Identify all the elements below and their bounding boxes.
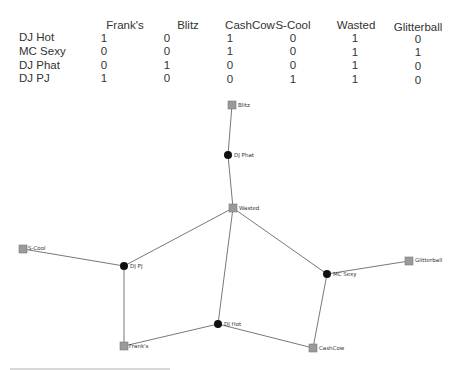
edge-wasted-djpj xyxy=(124,208,233,266)
venue-square-icon xyxy=(228,101,236,109)
person-circle-icon xyxy=(214,320,222,328)
node-franks: Frank's xyxy=(120,342,149,350)
edge-djhot-cashcow xyxy=(218,324,313,348)
node-mcsexy: MC Sexy xyxy=(323,270,357,278)
node-label: DJ PJ xyxy=(130,263,143,270)
venue-square-icon xyxy=(120,342,128,350)
node-label: Blitz xyxy=(238,102,250,108)
venue-square-icon xyxy=(229,204,237,212)
node-blitz: Blitz xyxy=(228,101,250,109)
venue-square-icon xyxy=(309,344,317,352)
person-circle-icon xyxy=(120,262,128,270)
node-label: Wasted xyxy=(239,205,259,211)
person-circle-icon xyxy=(224,151,232,159)
node-label: Frank's xyxy=(129,343,149,349)
node-djphat: DJ Phat xyxy=(224,151,255,159)
edges xyxy=(23,105,409,348)
figure-caption-cropped xyxy=(10,366,170,370)
node-djhot: DJ Hot xyxy=(214,320,242,328)
node-cashcow: CashCow xyxy=(309,344,345,352)
node-label: S-Cool xyxy=(28,245,46,251)
edge-mcsexy-cashcow xyxy=(313,274,327,348)
node-djpj: DJ PJ xyxy=(120,262,143,270)
node-label: Glitterball xyxy=(415,257,443,263)
node-label: DJ Phat xyxy=(234,152,255,159)
network-graph: Blitz DJ Phat Wasted S-Cool DJ PJ MC Sex… xyxy=(0,0,461,370)
person-circle-icon xyxy=(323,270,331,278)
edge-wasted-mcsexy xyxy=(233,208,327,274)
node-label: CashCow xyxy=(319,345,345,351)
venue-square-icon xyxy=(19,245,27,253)
node-label: MC Sexy xyxy=(333,271,357,278)
edge-scool-djpj xyxy=(23,249,124,266)
node-label: DJ Hot xyxy=(224,321,242,328)
node-wasted: Wasted xyxy=(229,204,259,212)
edge-wasted-djhot xyxy=(218,208,233,324)
edge-blitz-djphat xyxy=(228,105,232,155)
venue-square-icon xyxy=(405,257,413,265)
edge-djphat-wasted xyxy=(228,155,233,208)
node-glitterball: Glitterball xyxy=(405,257,443,265)
